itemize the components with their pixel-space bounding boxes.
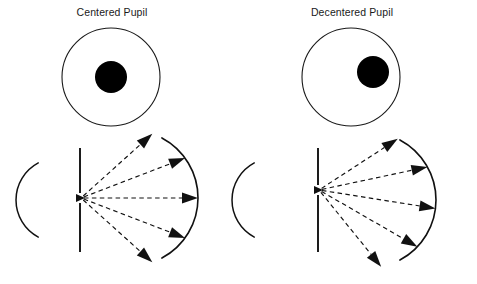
light-ray-centered-3 [84, 199, 170, 232]
pupil-disc-centered [95, 61, 127, 93]
light-ray-decentered-4 [321, 192, 371, 254]
ray-arrowhead-centered-1 [168, 158, 185, 169]
light-ray-centered-0 [83, 144, 140, 196]
light-ray-decentered-3 [322, 192, 404, 239]
ray-arrowhead-decentered-1 [411, 165, 428, 176]
light-ray-decentered-2 [322, 190, 420, 205]
ray-arrowhead-decentered-0 [381, 139, 397, 152]
ray-arrowhead-centered-3 [168, 227, 185, 238]
pupil-disc-decentered [357, 56, 389, 88]
light-ray-centered-4 [83, 200, 140, 252]
ray-arrowhead-centered-2 [182, 193, 198, 204]
cornea-arc-centered [16, 163, 38, 237]
cornea-arc-decentered [232, 163, 254, 237]
ray-arrowhead-decentered-4 [367, 251, 381, 267]
figure-caption [0, 276, 477, 284]
panel-title-centered: Centered Pupil [0, 6, 224, 18]
pupil-comparison-figure [0, 0, 477, 284]
light-ray-centered-1 [84, 164, 170, 197]
panel-title-decentered: Decentered Pupil [240, 6, 464, 18]
ray-arrowhead-decentered-2 [419, 201, 436, 212]
ray-arrowhead-decentered-3 [401, 234, 418, 247]
